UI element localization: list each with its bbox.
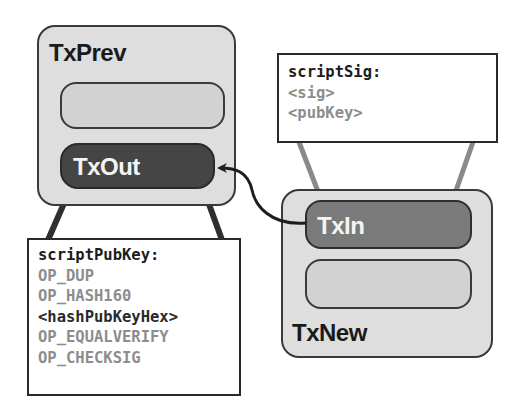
script-sig-colon: : — [372, 63, 381, 81]
script-pub-key-title: scriptPubKey — [38, 246, 150, 264]
script-line-op-checksig: OP_CHECKSIG — [38, 348, 239, 369]
script-line-pubkey: <pubKey> — [288, 103, 496, 124]
txin-pill: TxIn — [305, 200, 472, 249]
txout-pill: TxOut — [60, 143, 215, 189]
tx-new-title: TxNew — [292, 319, 367, 347]
script-sig-header: scriptSig: — [288, 62, 496, 83]
txin-label: TxIn — [317, 212, 364, 240]
tx-prev-empty-slot — [60, 82, 225, 129]
script-pub-key-colon: : — [150, 246, 159, 264]
script-line-op-equalverify: OP_EQUALVERIFY — [38, 327, 239, 348]
script-line-hash-pubkey-hex: <hashPubKeyHex> — [38, 307, 239, 328]
script-sig-box: scriptSig: <sig> <pubKey> — [277, 53, 498, 143]
script-pub-key-box: scriptPubKey: OP_DUP OP_HASH160 <hashPub… — [27, 238, 241, 396]
script-line-op-dup: OP_DUP — [38, 266, 239, 287]
script-pub-key-header: scriptPubKey: — [38, 245, 239, 266]
tx-prev-title: TxPrev — [49, 39, 126, 67]
script-line-op-hash160: OP_HASH160 — [38, 286, 239, 307]
tx-new-empty-slot — [305, 259, 472, 309]
script-sig-title: scriptSig — [288, 63, 372, 81]
script-line-sig: <sig> — [288, 83, 496, 104]
txout-label: TxOut — [73, 153, 140, 181]
